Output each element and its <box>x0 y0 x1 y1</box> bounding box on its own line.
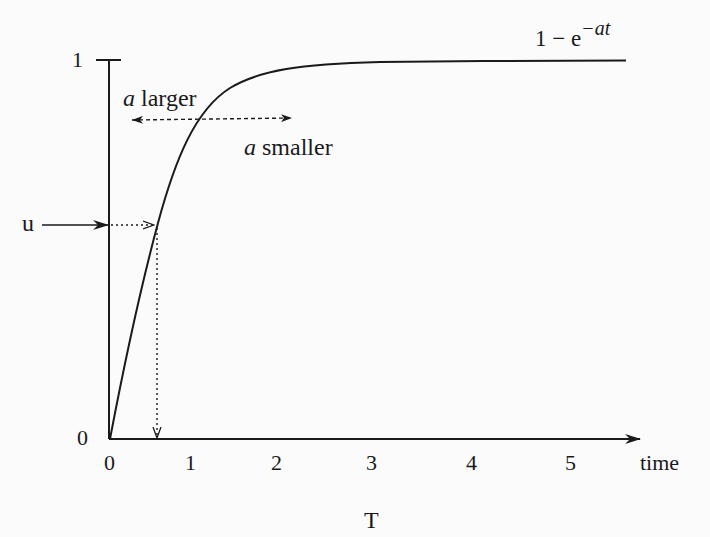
exponential-cdf-diagram: 1 0 u a larger a smaller 1 − e−at 0 1 2 … <box>0 0 710 537</box>
x-tick-label: 2 <box>271 452 282 474</box>
function-exponent: −at <box>581 17 610 39</box>
a-larger-label: a larger <box>123 86 197 110</box>
x-tick-label: 4 <box>466 452 477 474</box>
x-axis-title: time <box>640 452 679 474</box>
T-label: T <box>364 508 379 532</box>
x-tick-label: 5 <box>565 452 576 474</box>
y-tick-label-zero: 0 <box>77 427 88 449</box>
smaller-text: smaller <box>262 134 333 160</box>
a-variable: a <box>244 134 256 160</box>
x-tick-label: 0 <box>104 452 115 474</box>
a-variable: a <box>123 85 135 111</box>
a-smaller-label: a smaller <box>244 135 333 159</box>
a-change-arrow <box>132 118 292 120</box>
u-label: u <box>22 211 34 235</box>
y-tick-label-one: 1 <box>72 49 83 71</box>
function-base: 1 − e <box>535 26 581 51</box>
exponential-cdf-curve <box>110 61 626 440</box>
x-tick-label: 1 <box>185 452 196 474</box>
larger-text: larger <box>141 85 197 111</box>
function-label: 1 − e−at <box>535 27 610 50</box>
x-tick-label: 3 <box>366 452 377 474</box>
